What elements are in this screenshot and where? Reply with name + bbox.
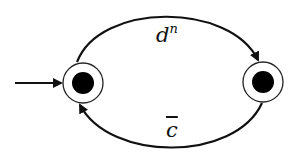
accepting-dot-icon [72,72,94,94]
state-s0 [63,63,103,103]
state-diagram [0,0,300,152]
label-base: d [156,23,169,47]
transition-label-c-bar: c [166,120,178,141]
label-base: c [166,118,178,142]
transition-label-d-n: dn [156,22,178,46]
label-superscript: n [169,21,177,36]
state-s1 [243,62,283,102]
accepting-dot-icon [252,71,274,93]
